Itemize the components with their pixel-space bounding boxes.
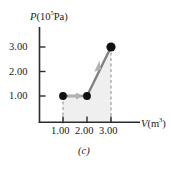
y-axis-unit-prefix: (10 <box>36 11 50 22</box>
data-point-3 <box>106 42 115 51</box>
x-axis-title: V(m3) <box>141 117 166 129</box>
y-axis-unit-suffix: Pa) <box>54 11 68 22</box>
figure-caption: (c) <box>78 146 90 157</box>
y-tick-label-3: 3.00 <box>9 42 27 53</box>
x-tick-label-3: 3.00 <box>99 126 117 137</box>
pv-diagram-figure: P(105Pa) 3.00 2.00 1.00 1.00 2.00 3.00 V… <box>0 0 171 171</box>
data-point-1 <box>59 92 67 100</box>
shaded-work-area <box>63 47 111 122</box>
x-axis-unit-suffix: ) <box>162 118 166 129</box>
x-tick-label-2: 2.00 <box>75 126 93 137</box>
x-axis-unit-prefix: (m <box>147 118 159 129</box>
data-point-2 <box>83 92 91 100</box>
x-tick-label-1: 1.00 <box>51 126 69 137</box>
y-axis-title: P(105Pa) <box>30 10 68 22</box>
y-tick-label-2: 2.00 <box>9 67 27 78</box>
y-tick-label-1: 1.00 <box>9 91 27 102</box>
